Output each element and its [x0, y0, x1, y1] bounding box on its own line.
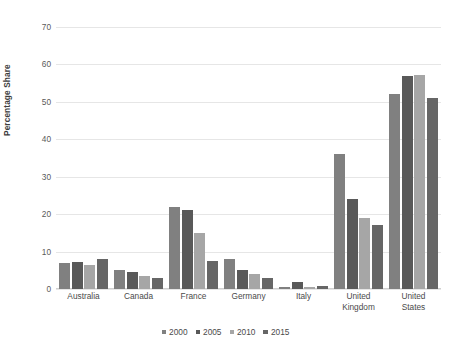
bar	[237, 270, 248, 289]
x-tick-label-line: States	[386, 302, 441, 313]
bar	[359, 218, 370, 289]
y-tick-label: 70	[21, 22, 51, 32]
x-tick-label-line: United	[386, 291, 441, 302]
x-tick-label: UnitedStates	[386, 291, 441, 312]
bar	[84, 265, 95, 289]
bar-group	[331, 27, 386, 289]
x-tick-label: Australia	[56, 291, 111, 312]
y-tick-label: 50	[21, 97, 51, 107]
bar	[304, 287, 315, 289]
x-tick-label: Germany	[221, 291, 276, 312]
x-tick-label-line: Canada	[111, 291, 166, 302]
bar	[249, 274, 260, 289]
bar	[372, 225, 383, 289]
bar	[224, 259, 235, 289]
plot-area: 010203040506070	[56, 27, 441, 289]
bar	[182, 210, 193, 289]
bar	[334, 154, 345, 289]
x-tick-label-line: Germany	[221, 291, 276, 302]
x-tick-label-line: Australia	[56, 291, 111, 302]
bar	[347, 199, 358, 289]
y-tick-label: 60	[21, 59, 51, 69]
bar-group	[56, 27, 111, 289]
legend-label: 2010	[237, 327, 255, 337]
y-tick-label: 30	[21, 172, 51, 182]
bar	[279, 287, 290, 289]
y-tick-label: 10	[21, 247, 51, 257]
x-tick-label: France	[166, 291, 221, 312]
legend-label: 2015	[271, 327, 289, 337]
y-axis-title: Percentage Share	[2, 16, 14, 136]
bar-group	[166, 27, 221, 289]
x-tick-label-line: Italy	[276, 291, 331, 302]
x-tick-label: Italy	[276, 291, 331, 312]
x-tick-label: Canada	[111, 291, 166, 312]
bar-chart-figure: Percentage Share 010203040506070 Austral…	[0, 0, 451, 359]
legend-item[interactable]: 2010	[230, 327, 256, 337]
legend-label: 2005	[203, 327, 221, 337]
bar	[292, 282, 303, 289]
bar	[194, 233, 205, 289]
y-tick-label: 0	[21, 284, 51, 294]
bar	[262, 278, 273, 289]
legend-item[interactable]: 2015	[263, 327, 289, 337]
legend-label: 2000	[169, 327, 187, 337]
bar	[114, 270, 125, 289]
bar	[127, 272, 138, 289]
x-tick-label-line: France	[166, 291, 221, 302]
bar-group	[276, 27, 331, 289]
legend-swatch-icon	[196, 330, 201, 335]
legend-item[interactable]: 2005	[196, 327, 222, 337]
legend-item[interactable]: 2000	[162, 327, 188, 337]
x-tick-label-line: United	[331, 291, 386, 302]
bar-group	[386, 27, 441, 289]
x-tick-label: UnitedKingdom	[331, 291, 386, 312]
bar	[169, 207, 180, 289]
gridline: 0	[56, 289, 441, 290]
bar-group	[221, 27, 276, 289]
bar	[414, 75, 425, 289]
bar	[389, 94, 400, 289]
bar	[427, 98, 438, 289]
bar-group	[111, 27, 166, 289]
bar	[72, 262, 83, 289]
x-axis-labels: AustraliaCanadaFranceGermanyItalyUnitedK…	[56, 291, 441, 312]
bar	[139, 276, 150, 289]
bar	[402, 76, 413, 289]
chart-legend: 2000200520102015	[0, 327, 451, 337]
bar	[152, 278, 163, 289]
bar	[97, 259, 108, 289]
x-tick-label-line: Kingdom	[331, 302, 386, 313]
legend-swatch-icon	[263, 330, 268, 335]
bar	[207, 261, 218, 289]
bar	[59, 263, 70, 289]
y-tick-label: 40	[21, 134, 51, 144]
bar	[317, 286, 328, 289]
bar-groups	[56, 27, 441, 289]
legend-swatch-icon	[230, 330, 235, 335]
legend-swatch-icon	[162, 330, 167, 335]
y-tick-label: 20	[21, 209, 51, 219]
